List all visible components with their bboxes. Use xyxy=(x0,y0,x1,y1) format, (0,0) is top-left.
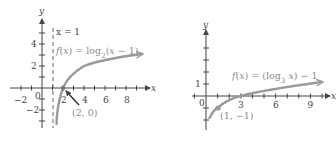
figure: y x −2 0 2 4 6 8 4 2 −2 x = 1 f(x) = log… xyxy=(0,0,336,141)
right-x-tick-label: 6 xyxy=(273,100,279,110)
left-x-tick-label: 4 xyxy=(82,95,88,105)
left-function-curve xyxy=(57,54,143,124)
left-x-label: x xyxy=(151,83,156,93)
point-arrow-icon xyxy=(66,91,79,105)
asymptote-label: x = 1 xyxy=(56,27,80,37)
right-y-label: y xyxy=(202,20,209,30)
right-chart: y x 0 3 6 9 1 f(x) = (log3 x) − 1 (1, −1… xyxy=(192,20,336,130)
right-x-label: x xyxy=(331,91,336,101)
left-x-tick-label: 6 xyxy=(103,95,109,105)
right-x-tick-label: 9 xyxy=(308,100,314,110)
left-y-tick-label: −2 xyxy=(26,105,39,115)
right-x-tick-label: 0 xyxy=(199,98,205,108)
left-x-tick-label: 0 xyxy=(35,91,41,101)
left-function-label: f(x) = log2(x − 1) xyxy=(55,45,138,60)
left-point-marker xyxy=(61,86,65,90)
left-point-label: (2, 0) xyxy=(72,107,98,118)
left-y-tick-label: 2 xyxy=(31,61,37,71)
right-y-tick-label: 1 xyxy=(195,79,201,89)
right-x-tick-label: 3 xyxy=(238,100,244,110)
left-x-tick-label: 8 xyxy=(124,95,130,105)
left-x-tick-label: 2 xyxy=(61,95,67,105)
right-function-label: f(x) = (log3 x) − 1 xyxy=(231,70,317,85)
left-chart: y x −2 0 2 4 6 8 4 2 −2 x = 1 f(x) = log… xyxy=(10,6,156,128)
right-point-label: (1, −1) xyxy=(220,110,254,121)
left-y-tick-label: 4 xyxy=(31,39,37,49)
left-y-label: y xyxy=(38,6,45,16)
left-x-tick-label: −2 xyxy=(14,95,27,105)
